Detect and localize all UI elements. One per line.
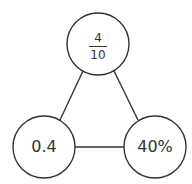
fraction-bar: [89, 46, 107, 47]
fraction-label: 4 10: [83, 32, 113, 61]
percent-label: 40%: [125, 139, 185, 155]
fraction-numerator: 4: [83, 32, 113, 44]
edge-top-to-bottom-left: [60, 71, 83, 120]
diagram-canvas: [0, 0, 192, 184]
fraction-denominator: 10: [83, 49, 113, 61]
edge-top-to-bottom-right: [114, 71, 138, 120]
decimal-label: 0.4: [19, 139, 69, 155]
